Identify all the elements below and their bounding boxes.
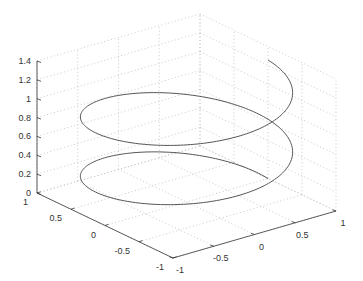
z-tick xyxy=(37,80,41,82)
x-tick-label: -1 xyxy=(176,265,184,275)
x-tick xyxy=(333,210,337,211)
z-tick xyxy=(37,136,41,138)
z-tick-label: 0.2 xyxy=(18,169,31,179)
x-tick-label: 0.5 xyxy=(296,230,309,240)
grid-lines xyxy=(37,14,336,258)
z-tick-label: 0.6 xyxy=(18,131,31,141)
z-tick-label: 1.4 xyxy=(18,56,31,66)
x-tick xyxy=(210,245,214,246)
z-tick xyxy=(37,174,41,176)
z-tick-label: 1 xyxy=(26,94,31,104)
x-tick-label: -0.5 xyxy=(213,253,229,263)
z-tick xyxy=(37,118,41,120)
y-tick xyxy=(105,224,109,225)
x-tick xyxy=(170,257,174,258)
z-tick-label: 0.8 xyxy=(18,113,31,123)
grid-line xyxy=(37,89,200,136)
x-tick xyxy=(251,233,255,234)
grid-line xyxy=(200,33,336,98)
z-tick xyxy=(37,99,41,101)
x-tick xyxy=(292,222,296,223)
y-tick-label: -0.5 xyxy=(114,246,130,256)
y-tick-label: -1 xyxy=(156,262,164,272)
grid-line xyxy=(139,195,302,242)
grid-line xyxy=(159,158,295,223)
y-tick-label: 0.5 xyxy=(49,213,62,223)
z-tick-label: 0.4 xyxy=(18,150,31,160)
helix-curve xyxy=(80,60,292,205)
helix-3d-plot: 00.20.40.60.811.21.410.50-0.5-1-1-0.500.… xyxy=(0,0,363,281)
x-tick-label: 1 xyxy=(340,218,345,228)
z-tick xyxy=(37,155,41,157)
y-tick xyxy=(37,192,41,193)
y-tick-label: 1 xyxy=(23,197,28,207)
z-tick-label: 1.2 xyxy=(18,75,31,85)
y-tick xyxy=(139,241,143,242)
y-tick xyxy=(173,257,177,258)
z-tick xyxy=(37,61,41,63)
y-tick xyxy=(71,208,75,209)
grid-line xyxy=(200,52,336,117)
y-tick-label: 0 xyxy=(91,230,96,240)
x-tick-label: 0 xyxy=(259,242,264,252)
